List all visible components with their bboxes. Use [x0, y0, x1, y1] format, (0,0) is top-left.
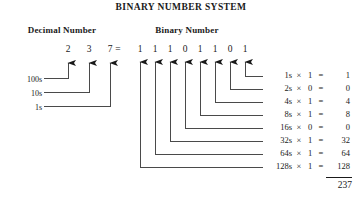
- calc-equals: =: [317, 70, 325, 80]
- leader-decimal-100s: [44, 63, 68, 78]
- sum-total: 237: [302, 180, 352, 190]
- calc-equals: =: [317, 96, 325, 106]
- leader-binary-64s: [155, 62, 263, 154]
- sum-divider-rule: [326, 177, 352, 178]
- decimal-place-label-100s: 100s: [8, 75, 42, 84]
- multiply-icon: ×: [295, 135, 303, 145]
- calculation-row: 64s × 1 = 64: [262, 148, 362, 161]
- decimal-digit-hundreds: 2: [62, 44, 74, 54]
- calculation-list: 1s × 1 = 1 2s × 0 = 0 4s × 1 = 4 8s × 1 …: [262, 70, 362, 174]
- binary-digit-3: 0: [179, 44, 191, 54]
- calculation-row: 16s × 0 = 0: [262, 122, 362, 135]
- decimal-place-label-1s: 1s: [8, 103, 42, 112]
- binary-number-heading: Binary Number: [133, 25, 241, 35]
- leader-binary-2s: [230, 62, 263, 89]
- calc-place: 4s: [262, 96, 292, 106]
- calc-bit: 0: [306, 83, 314, 93]
- calc-value: 128: [326, 161, 350, 171]
- calc-bit: 1: [306, 109, 314, 119]
- leader-decimal-10s: [44, 63, 89, 92]
- binary-digit-6: 0: [224, 44, 236, 54]
- leader-binary-4s: [215, 62, 263, 102]
- calc-place: 16s: [262, 122, 292, 132]
- multiply-icon: ×: [295, 109, 303, 119]
- leader-binary-32s: [170, 62, 263, 141]
- calc-equals: =: [317, 83, 325, 93]
- multiply-icon: ×: [295, 122, 303, 132]
- calc-equals: =: [317, 161, 325, 171]
- equals-sign: =: [112, 44, 124, 54]
- calc-value: 1: [326, 70, 350, 80]
- calc-place: 64s: [262, 148, 292, 158]
- calculation-row: 1s × 1 = 1: [262, 70, 362, 83]
- leader-binary-8s: [200, 62, 263, 115]
- binary-digit-5: 1: [209, 44, 221, 54]
- calc-value: 32: [326, 135, 350, 145]
- calc-bit: 1: [306, 148, 314, 158]
- multiply-icon: ×: [295, 161, 303, 171]
- binary-digit-4: 1: [194, 44, 206, 54]
- binary-digit-0: 1: [134, 44, 146, 54]
- calc-bit: 0: [306, 122, 314, 132]
- calc-value: 0: [326, 122, 350, 132]
- calc-value: 64: [326, 148, 350, 158]
- calc-equals: =: [317, 122, 325, 132]
- calc-place: 32s: [262, 135, 292, 145]
- decimal-number-heading: Decimal Number: [8, 25, 116, 35]
- calc-place: 1s: [262, 70, 292, 80]
- calc-value: 0: [326, 83, 350, 93]
- calculation-row: 8s × 1 = 8: [262, 109, 362, 122]
- calc-bit: 1: [306, 161, 314, 171]
- calc-place: 128s: [262, 161, 292, 171]
- calc-value: 8: [326, 109, 350, 119]
- leader-binary-1s: [245, 62, 263, 76]
- calc-bit: 1: [306, 135, 314, 145]
- calc-place: 8s: [262, 109, 292, 119]
- calculation-row: 4s × 1 = 4: [262, 96, 362, 109]
- leader-decimal-1s: [44, 63, 110, 106]
- page-title: BINARY NUMBER SYSTEM: [0, 2, 362, 12]
- binary-digit-1: 1: [149, 44, 161, 54]
- multiply-icon: ×: [295, 96, 303, 106]
- leader-binary-128s: [140, 62, 263, 167]
- binary-number-system-diagram: BINARY NUMBER SYSTEM Decimal Number Bina…: [0, 0, 362, 200]
- calc-value: 4: [326, 96, 350, 106]
- decimal-place-label-10s: 10s: [8, 89, 42, 98]
- binary-digit-2: 1: [164, 44, 176, 54]
- calc-equals: =: [317, 135, 325, 145]
- calc-place: 2s: [262, 83, 292, 93]
- decimal-digit-tens: 3: [83, 44, 95, 54]
- calc-equals: =: [317, 109, 325, 119]
- calc-bit: 1: [306, 70, 314, 80]
- multiply-icon: ×: [295, 148, 303, 158]
- calculation-row: 2s × 0 = 0: [262, 83, 362, 96]
- leader-binary-16s: [185, 62, 263, 128]
- calculation-row: 128s × 1 = 128: [262, 161, 362, 174]
- calc-equals: =: [317, 148, 325, 158]
- multiply-icon: ×: [295, 70, 303, 80]
- calc-bit: 1: [306, 96, 314, 106]
- binary-digit-7: 1: [239, 44, 251, 54]
- calculation-row: 32s × 1 = 32: [262, 135, 362, 148]
- multiply-icon: ×: [295, 83, 303, 93]
